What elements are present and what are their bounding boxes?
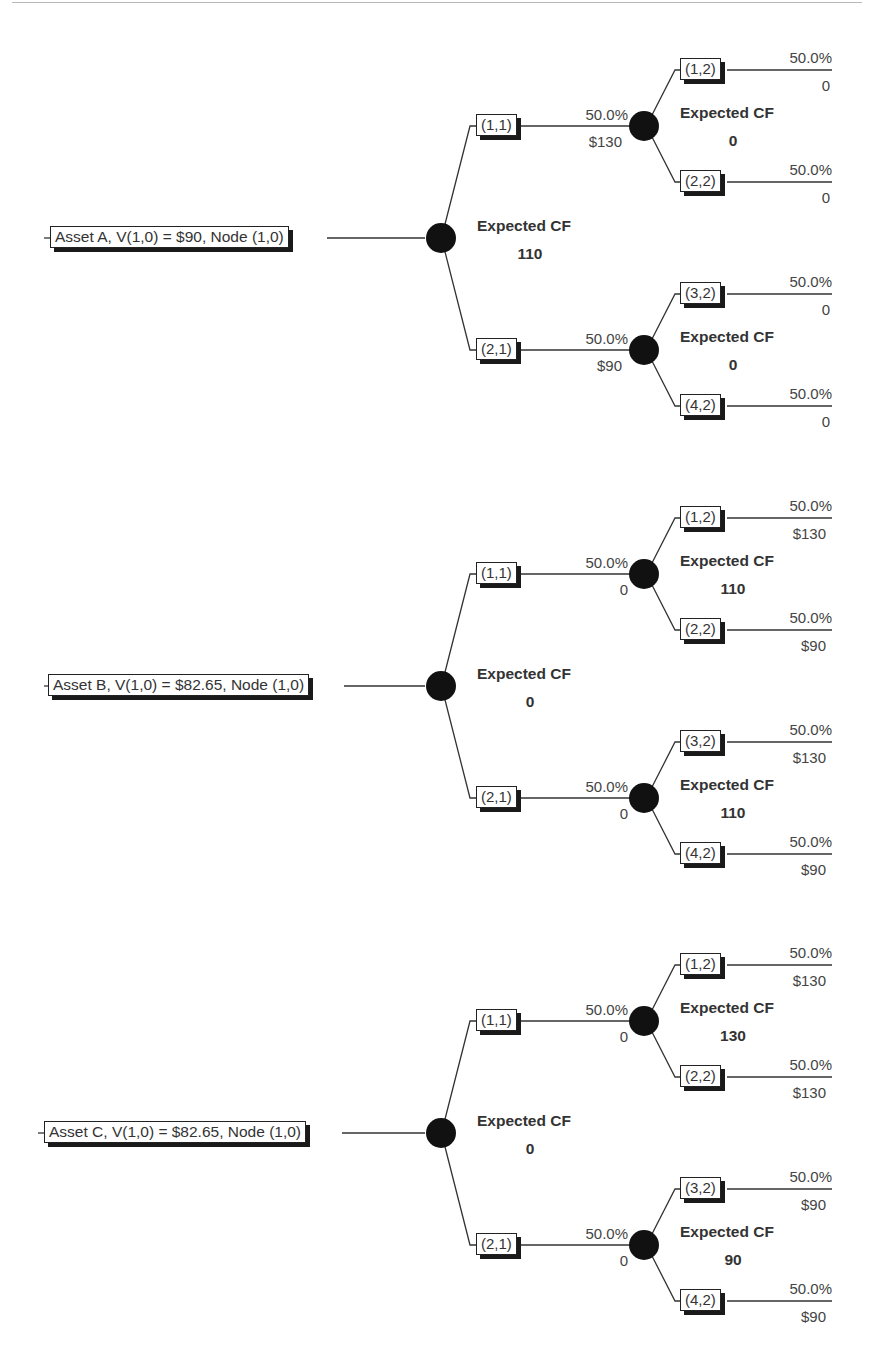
leaf-cash-flow: $130: [760, 525, 826, 542]
expected-cf-value: 0: [500, 1140, 560, 1158]
branch-probability: 50.0%: [560, 778, 628, 795]
expected-cf-value: 130: [703, 1027, 763, 1045]
leaf-probability: 50.0%: [760, 833, 832, 850]
branch-cash-flow: 0: [560, 1028, 628, 1045]
leaf-cash-flow: 0: [760, 77, 830, 94]
expected-cf-value: 0: [500, 693, 560, 711]
branch-probability: 50.0%: [560, 106, 628, 123]
branch-cash-flow: 0: [560, 581, 628, 598]
node-box: (2,1): [476, 338, 517, 360]
expected-cf-label: Expected CF: [680, 999, 774, 1017]
branch-probability: 50.0%: [560, 1001, 628, 1018]
expected-cf-value: 0: [703, 132, 763, 150]
chance-node-icon: [426, 1118, 456, 1148]
expected-cf-label: Expected CF: [680, 328, 774, 346]
expected-cf-label: Expected CF: [680, 1223, 774, 1241]
node-box: (2,2): [680, 170, 721, 192]
leaf-cash-flow: $90: [760, 1308, 826, 1325]
leaf-probability: 50.0%: [760, 721, 832, 738]
node-box: (2,1): [476, 1233, 517, 1255]
chance-node-icon: [629, 335, 659, 365]
node-box: (3,2): [680, 282, 721, 304]
expected-cf-value: 110: [500, 245, 560, 263]
leaf-cash-flow: 0: [760, 301, 830, 318]
node-box: (2,2): [680, 618, 721, 640]
expected-cf-label: Expected CF: [680, 776, 774, 794]
leaf-probability: 50.0%: [760, 1056, 832, 1073]
expected-cf-value: 0: [703, 356, 763, 374]
leaf-cash-flow: 0: [760, 413, 830, 430]
node-box: (1,2): [680, 506, 721, 528]
chance-node-icon: [629, 559, 659, 589]
node-box: (2,2): [680, 1065, 721, 1087]
expected-cf-label: Expected CF: [477, 665, 571, 683]
leaf-cash-flow: $90: [760, 637, 826, 654]
leaf-probability: 50.0%: [760, 385, 832, 402]
branch-probability: 50.0%: [560, 554, 628, 571]
leaf-probability: 50.0%: [760, 944, 832, 961]
leaf-probability: 50.0%: [760, 609, 832, 626]
chance-node-icon: [629, 783, 659, 813]
expected-cf-value: 110: [703, 580, 763, 598]
root-node-label: Asset C, V(1,0) = $82.65, Node (1,0): [44, 1121, 306, 1143]
node-box: (1,2): [680, 58, 721, 80]
leaf-cash-flow: $130: [760, 972, 826, 989]
leaf-probability: 50.0%: [760, 497, 832, 514]
node-box: (1,1): [476, 562, 517, 584]
expected-cf-label: Expected CF: [477, 217, 571, 235]
leaf-cash-flow: $130: [760, 1084, 826, 1101]
node-box: (4,2): [680, 394, 721, 416]
leaf-probability: 50.0%: [760, 273, 832, 290]
branch-cash-flow: $130: [560, 133, 622, 150]
leaf-cash-flow: $90: [760, 861, 826, 878]
node-box: (2,1): [476, 786, 517, 808]
node-box: (3,2): [680, 1177, 721, 1199]
leaf-cash-flow: $130: [760, 749, 826, 766]
expected-cf-value: 90: [703, 1251, 763, 1269]
chance-node-icon: [629, 1006, 659, 1036]
root-node-label: Asset A, V(1,0) = $90, Node (1,0): [50, 226, 289, 248]
root-node-label: Asset B, V(1,0) = $82.65, Node (1,0): [48, 674, 309, 696]
chance-node-icon: [426, 223, 456, 253]
node-box: (1,1): [476, 114, 517, 136]
branch-cash-flow: 0: [560, 1252, 628, 1269]
leaf-cash-flow: $90: [760, 1196, 826, 1213]
expected-cf-label: Expected CF: [680, 104, 774, 122]
node-box: (1,1): [476, 1009, 517, 1031]
node-box: (3,2): [680, 730, 721, 752]
leaf-probability: 50.0%: [760, 161, 832, 178]
leaf-probability: 50.0%: [760, 49, 832, 66]
expected-cf-value: 110: [703, 804, 763, 822]
leaf-cash-flow: 0: [760, 189, 830, 206]
chance-node-icon: [629, 111, 659, 141]
node-box: (1,2): [680, 953, 721, 975]
branch-probability: 50.0%: [560, 1225, 628, 1242]
leaf-probability: 50.0%: [760, 1168, 832, 1185]
branch-probability: 50.0%: [560, 330, 628, 347]
node-box: (4,2): [680, 842, 721, 864]
node-box: (4,2): [680, 1289, 721, 1311]
expected-cf-label: Expected CF: [680, 552, 774, 570]
branch-cash-flow: 0: [560, 805, 628, 822]
chance-node-icon: [629, 1230, 659, 1260]
expected-cf-label: Expected CF: [477, 1112, 571, 1130]
chance-node-icon: [426, 671, 456, 701]
branch-cash-flow: $90: [560, 357, 622, 374]
leaf-probability: 50.0%: [760, 1280, 832, 1297]
